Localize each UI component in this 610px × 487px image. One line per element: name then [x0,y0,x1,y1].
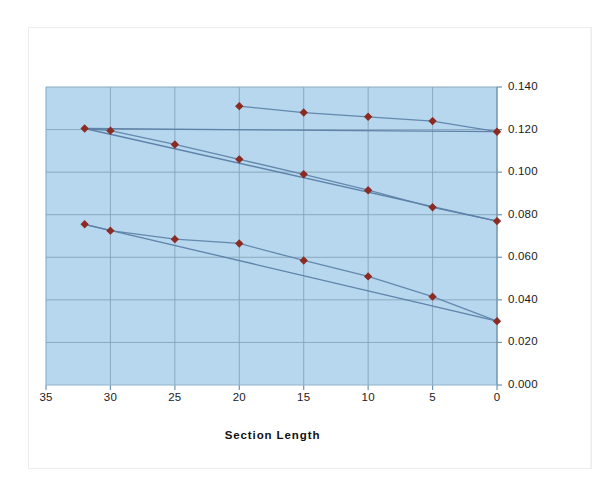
y-tick-label: 0.080 [508,208,538,220]
y-tick-label: 0.120 [508,123,538,135]
y-tick-label: 0.060 [508,250,538,262]
x-tick-label: 20 [219,391,259,403]
y-tick-label: 0.000 [508,378,538,390]
y-tick-label: 0.100 [508,165,538,177]
y-tick-label: 0.020 [508,335,538,347]
chart-page: 35302520151050 0.0000.0200.0400.0600.080… [0,0,610,487]
x-tick-label: 10 [348,391,388,403]
line-chart [0,0,610,487]
x-tick-label: 15 [284,391,324,403]
x-tick-label: 35 [26,391,66,403]
x-tick-label: 0 [477,391,517,403]
y-tick-label: 0.140 [508,80,538,92]
x-tick-label: 30 [90,391,130,403]
x-tick-label: 25 [155,391,195,403]
x-tick-label: 5 [413,391,453,403]
y-tick-label: 0.040 [508,293,538,305]
x-axis-title: Section Length [0,429,545,441]
